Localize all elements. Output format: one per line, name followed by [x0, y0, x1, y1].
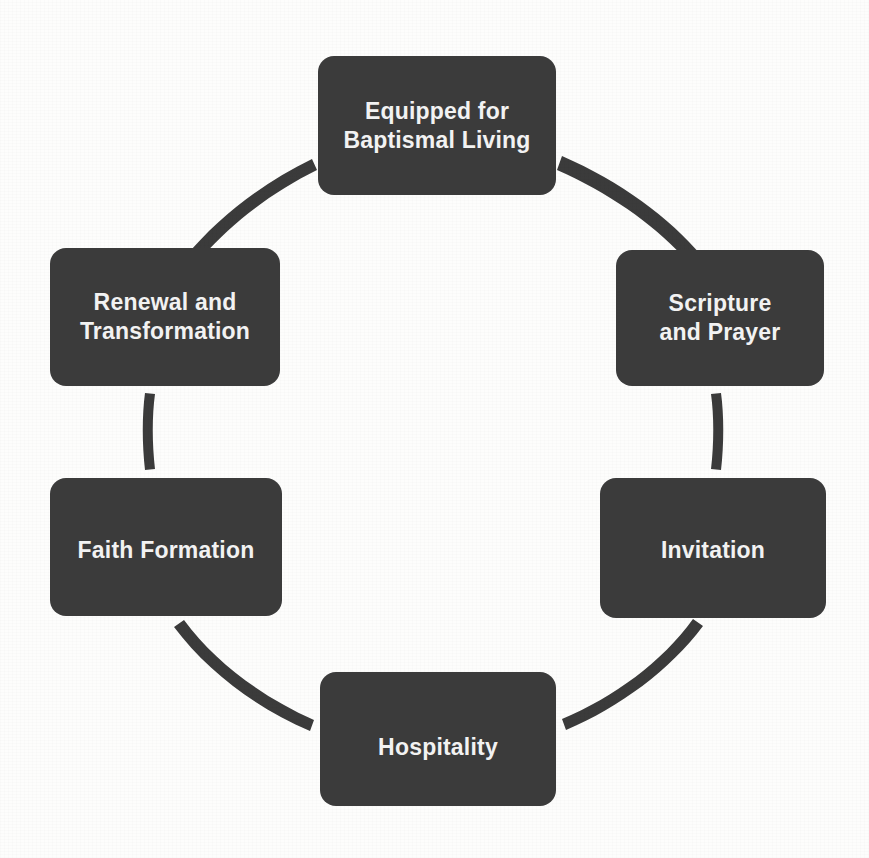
node-label: Equipped for Baptismal Living: [333, 97, 540, 155]
node-label: Hospitality: [368, 733, 508, 762]
node-renewal-and-transformation[interactable]: Renewal and Transformation: [50, 248, 280, 386]
node-invitation[interactable]: Invitation: [600, 478, 826, 618]
node-hospitality[interactable]: Hospitality: [320, 672, 556, 806]
node-label: Renewal and Transformation: [70, 288, 260, 346]
node-label: Scripture and Prayer: [650, 289, 791, 347]
connector-bottom-to-lower-left: [174, 620, 314, 731]
node-label: Faith Formation: [68, 536, 265, 565]
connector-upper-right-to-lower-right: [711, 393, 723, 470]
node-faith-formation[interactable]: Faith Formation: [50, 478, 282, 616]
connector-lower-right-to-bottom: [562, 619, 703, 730]
cycle-diagram: Equipped for Baptismal Living Scripture …: [0, 0, 869, 858]
node-label: Invitation: [651, 536, 775, 565]
node-equipped-for-baptismal-living[interactable]: Equipped for Baptismal Living: [318, 56, 556, 195]
connector-lower-left-to-upper-left: [143, 393, 155, 470]
node-scripture-and-prayer[interactable]: Scripture and Prayer: [616, 250, 824, 386]
